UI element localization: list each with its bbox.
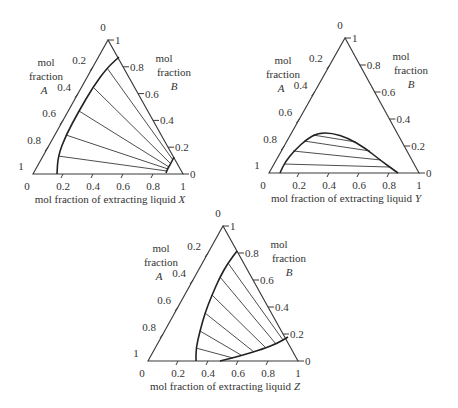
bottom-tick-label: 0.4 <box>86 180 100 192</box>
left-tick-label: 0.4 <box>57 81 71 93</box>
tick-mark <box>387 173 389 177</box>
x-axis-title: mol fraction of extracting liquid Y <box>271 192 423 204</box>
right-tick-label: 0.4 <box>396 113 410 125</box>
bottom-tick-label: 0.2 <box>171 367 185 379</box>
axis-label-a: mol <box>152 242 169 254</box>
right-tick-label: 0.6 <box>382 86 396 98</box>
left-tick-label: 1 <box>18 160 24 172</box>
right-tick-label: 0 <box>426 167 432 179</box>
bottom-tick-label: 0.2 <box>56 180 70 192</box>
right-tick-label: 0.8 <box>245 247 259 259</box>
axis-label-b: mol <box>392 50 409 62</box>
right-tick-label: 0.4 <box>160 114 174 126</box>
tie-line <box>79 111 169 167</box>
axis-label-b: fraction <box>394 64 429 76</box>
bottom-tick-label: 0.8 <box>146 180 160 192</box>
axis-label-b: fraction <box>272 252 307 264</box>
axis-label-a: fraction <box>266 68 301 80</box>
tie-line <box>196 348 233 358</box>
bottom-tick-label: 0.8 <box>382 179 396 191</box>
ternary-diagram-x: 00.20.40.60.8110.80.60.40.2000.20.40.60.… <box>18 21 196 205</box>
right-tick-label: 0.2 <box>290 328 304 340</box>
right-tick-label: 0.2 <box>175 141 189 153</box>
right-tick-label: 1 <box>230 220 236 232</box>
bottom-tick-label: 0.6 <box>352 179 366 191</box>
bottom-tick-label: 1 <box>416 179 422 191</box>
bottom-tick-label: 0.6 <box>116 180 130 192</box>
tick-mark <box>327 173 329 177</box>
left-tick-label: 0 <box>215 207 221 219</box>
right-tick-label: 0.4 <box>275 301 289 313</box>
binodal-curve <box>166 157 174 173</box>
bottom-tick-label: 0 <box>139 367 145 379</box>
tick-mark <box>236 361 238 365</box>
ternary-diagram-z: 00.20.40.60.8110.80.60.40.2000.20.40.60.… <box>133 207 311 392</box>
left-tick-label: 0.8 <box>142 321 156 333</box>
left-tick-label: 0.6 <box>157 294 171 306</box>
right-tick-label: 0.6 <box>145 88 159 100</box>
bottom-tick-label: 0.6 <box>231 367 245 379</box>
axis-label-a: fraction <box>144 256 179 268</box>
bottom-tick-label: 0.4 <box>322 179 336 191</box>
right-tick-label: 1 <box>115 34 121 46</box>
right-tick-label: 1 <box>352 32 358 44</box>
x-axis-title: mol fraction of extracting liquid Z <box>150 380 301 392</box>
tick-mark <box>357 173 359 177</box>
axis-label-a: A <box>277 82 285 94</box>
right-tick-label: 0.8 <box>130 61 144 73</box>
axis-label-a: mol <box>274 54 291 66</box>
left-tick-label: 0.8 <box>263 133 277 145</box>
axis-label-b: fraction <box>157 66 192 78</box>
left-tick-label: 0.6 <box>42 107 56 119</box>
left-tick-label: 1 <box>133 347 139 359</box>
tie-line <box>284 164 389 167</box>
tick-mark <box>176 361 178 365</box>
right-tick-label: 0 <box>190 168 196 180</box>
tick-mark <box>121 174 123 178</box>
tick-mark <box>206 361 208 365</box>
left-tick-label: 0.6 <box>279 106 293 118</box>
x-axis-title: mol fraction of extracting liquid X <box>35 193 187 205</box>
bottom-tick-label: 1 <box>295 367 301 379</box>
tick-mark <box>151 174 153 178</box>
left-tick-label: 0.8 <box>27 134 41 146</box>
tick-mark <box>61 174 63 178</box>
right-tick-label: 0 <box>305 355 311 367</box>
right-tick-label: 0.6 <box>260 274 274 286</box>
tie-line <box>293 151 381 160</box>
tick-mark <box>91 174 93 178</box>
left-tick-label: 0.4 <box>294 79 308 91</box>
axis-label-b: mol <box>155 52 172 64</box>
right-tick-label: 0.8 <box>367 59 381 71</box>
left-tick-label: 0 <box>337 19 343 31</box>
tick-mark <box>266 361 268 365</box>
ternary-figure: 00.20.40.60.8110.80.60.40.2000.20.40.60.… <box>0 0 458 408</box>
bottom-tick-label: 0.4 <box>201 367 215 379</box>
left-tick-label: 1 <box>254 159 260 171</box>
bottom-tick-label: 0.8 <box>261 367 275 379</box>
bottom-tick-label: 0 <box>24 180 30 192</box>
axis-label-b: B <box>286 266 293 278</box>
axis-label-b: B <box>171 80 178 92</box>
tie-line <box>200 331 241 355</box>
axis-label-a: fraction <box>29 70 64 82</box>
axis-label-b: B <box>408 78 415 90</box>
ternary-diagram-y: 00.20.40.60.8110.80.60.40.2000.20.40.60.… <box>254 19 432 204</box>
tick-mark <box>297 173 299 177</box>
bottom-tick-label: 1 <box>180 180 186 192</box>
axis-label-b: mol <box>270 238 287 250</box>
left-tick-label: 0.4 <box>172 267 186 279</box>
axis-label-a: mol <box>37 56 54 68</box>
axis-label-a: A <box>40 84 48 96</box>
axis-label-a: A <box>155 270 163 282</box>
left-tick-label: 0.2 <box>187 240 201 252</box>
left-tick-label: 0 <box>100 21 106 33</box>
tie-line <box>205 313 254 352</box>
left-tick-label: 0.2 <box>309 52 323 64</box>
bottom-tick-label: 0 <box>260 179 266 191</box>
bottom-tick-label: 0.2 <box>292 179 306 191</box>
right-tick-label: 0.2 <box>411 140 425 152</box>
left-tick-label: 0.2 <box>72 54 86 66</box>
